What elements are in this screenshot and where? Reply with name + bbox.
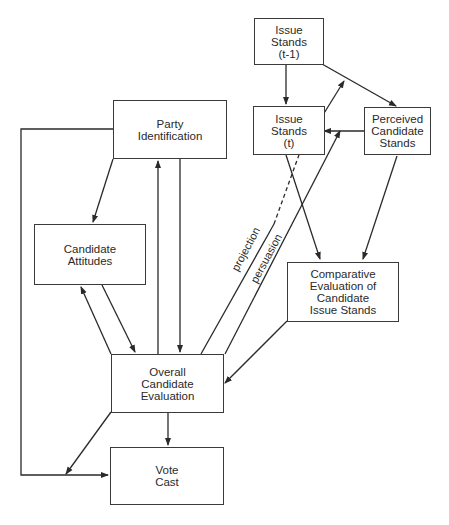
node-issue-stands-t: Issue Stands (t) bbox=[253, 106, 325, 155]
edge-attitudes-to-overall bbox=[102, 285, 135, 352]
edge-perceived-to-comparative bbox=[363, 156, 397, 259]
node-party-identification: Party Identification bbox=[113, 100, 227, 159]
edge-issue-t-to-comparative bbox=[286, 155, 320, 259]
node-issue-stands-t-minus-1: Issue Stands (t-1) bbox=[254, 18, 324, 65]
node-candidate-attitudes: Candidate Attitudes bbox=[34, 224, 146, 285]
node-comparative-evaluation: Comparative Evaluation of Candidate Issu… bbox=[287, 262, 399, 322]
edge-party-to-vote bbox=[21, 129, 113, 475]
edge-overall-to-attitudes bbox=[81, 287, 111, 354]
edge-projection-dashed bbox=[274, 152, 300, 224]
node-perceived-candidate-stands: Perceived Candidate Stands bbox=[364, 107, 431, 155]
node-vote-cast: Vote Cast bbox=[110, 447, 224, 505]
edge-comparative-to-overall bbox=[225, 321, 287, 383]
edge-party-to-attitudes bbox=[93, 159, 113, 222]
node-overall-candidate-evaluation: Overall Candidate Evaluation bbox=[111, 354, 224, 413]
edge-overall-to-vote-left bbox=[66, 412, 111, 474]
edge-projection bbox=[201, 224, 274, 354]
